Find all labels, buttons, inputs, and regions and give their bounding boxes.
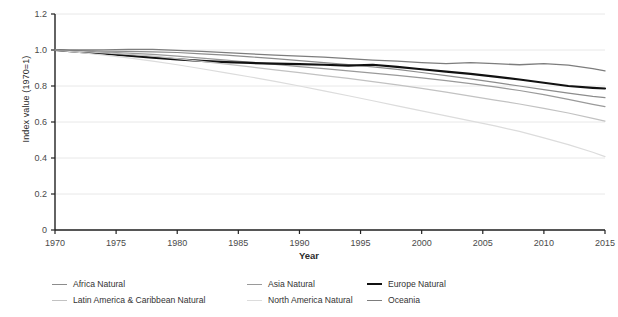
x-axis-ticks: 1970197519801985199019952000200520102015 <box>45 230 615 248</box>
legend-item[interactable]: Asia Natural <box>247 279 367 289</box>
y-tick-label: 0.2 <box>34 189 47 199</box>
series-lines <box>55 49 605 156</box>
series-line <box>55 49 605 71</box>
y-axis-ticks: 00.20.40.60.81.01.2 <box>34 9 55 235</box>
legend-item-label: Africa Natural <box>73 279 125 289</box>
y-axis-label: Index value (1970=1) <box>21 29 31 169</box>
y-tick-label: 0.4 <box>34 153 47 163</box>
x-axis-label: Year <box>0 250 618 261</box>
x-tick-label: 1980 <box>167 238 187 248</box>
legend-swatch-icon <box>367 283 382 285</box>
x-tick-label: 1990 <box>289 238 309 248</box>
legend-swatch-icon <box>52 300 67 301</box>
y-tick-label: 1.2 <box>34 9 47 19</box>
line-chart-svg: 00.20.40.60.81.01.2 19701975198019851990… <box>0 0 618 317</box>
chart-legend: Africa NaturalAsia NaturalEurope Natural… <box>52 276 552 308</box>
legend-swatch-icon <box>247 284 262 285</box>
legend-swatch-icon <box>367 300 382 301</box>
grid-lines <box>55 14 605 230</box>
x-tick-label: 1970 <box>45 238 65 248</box>
legend-item[interactable]: North America Natural <box>247 295 367 305</box>
legend-swatch-icon <box>247 300 262 301</box>
legend-item[interactable]: Europe Natural <box>367 279 552 289</box>
y-tick-label: 0 <box>42 225 47 235</box>
legend-item-label: North America Natural <box>268 295 353 305</box>
y-tick-label: 0.6 <box>34 117 47 127</box>
legend-item-label: Latin America & Caribbean Natural <box>73 295 205 305</box>
x-tick-label: 2010 <box>534 238 554 248</box>
x-tick-label: 1975 <box>106 238 126 248</box>
x-tick-label: 2005 <box>473 238 493 248</box>
legend-swatch-icon <box>52 284 67 285</box>
legend-item-label: Asia Natural <box>268 279 315 289</box>
x-tick-label: 2015 <box>595 238 615 248</box>
x-tick-label: 1985 <box>228 238 248 248</box>
legend-item[interactable]: Oceania <box>367 295 552 305</box>
legend-item-label: Oceania <box>388 295 420 305</box>
x-tick-label: 2000 <box>412 238 432 248</box>
y-tick-label: 0.8 <box>34 81 47 91</box>
y-tick-label: 1.0 <box>34 45 47 55</box>
series-line <box>55 50 605 107</box>
legend-item-label: Europe Natural <box>388 279 446 289</box>
chart-container: 00.20.40.60.81.01.2 19701975198019851990… <box>0 0 618 317</box>
legend-item[interactable]: Africa Natural <box>52 279 247 289</box>
legend-item[interactable]: Latin America & Caribbean Natural <box>52 295 247 305</box>
x-tick-label: 1995 <box>351 238 371 248</box>
